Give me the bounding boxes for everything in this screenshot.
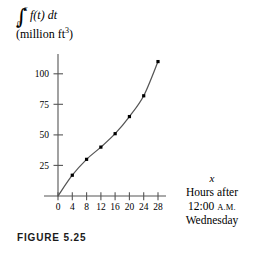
data-point-24 (142, 94, 145, 97)
x-axis-variable: x (168, 172, 256, 185)
x-tick-label-8: 8 (84, 202, 89, 212)
data-point-28 (156, 60, 159, 63)
data-point-12 (99, 146, 102, 149)
x-axis-tick-labels: 0 4 8 12 16 20 24 28 (56, 202, 163, 212)
x-axis-line-1: Hours after (168, 185, 256, 199)
x-axis-line-2: 12:00 A.M. (168, 199, 256, 213)
data-point-8 (85, 158, 88, 161)
x-axis-line-3: Wednesday (168, 213, 256, 227)
y-tick-label-100: 100 (35, 69, 50, 79)
x-axis-label: x Hours after 12:00 A.M. Wednesday (168, 172, 256, 227)
x-axis-period: A.M. (217, 202, 236, 212)
x-axis-time: 12:00 (188, 200, 214, 212)
x-tick-label-16: 16 (110, 202, 120, 212)
figure-caption: FIGURE 5.25 (17, 232, 86, 243)
x-tick-label-12: 12 (96, 202, 106, 212)
y-tick-label-75: 75 (40, 100, 50, 110)
figure-container: ∫ x 0 f(t) dt (million ft3) 25 (0, 0, 257, 256)
x-tick-label-4: 4 (70, 202, 75, 212)
x-tick-label-20: 20 (125, 202, 135, 212)
y-axis-tick-labels: 25 50 75 100 (35, 69, 50, 171)
y-tick-label-25: 25 (40, 161, 50, 171)
data-point-20 (128, 115, 131, 118)
x-tick-label-28: 28 (153, 202, 163, 212)
x-tick-label-24: 24 (139, 202, 149, 212)
x-tick-label-0: 0 (56, 202, 61, 212)
y-tick-label-50: 50 (40, 130, 50, 140)
data-point-markers (71, 60, 160, 177)
data-point-16 (114, 132, 117, 135)
data-point-4 (71, 174, 74, 177)
